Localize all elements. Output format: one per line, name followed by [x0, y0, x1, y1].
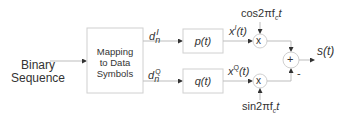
xq-label: xQ(t) — [228, 64, 249, 77]
input-label-line1: Binary — [8, 59, 68, 71]
dn-i-label: dnI — [149, 28, 159, 45]
p-filter-label: p(t) — [183, 36, 223, 47]
sin-carrier-label: sin2πfct — [242, 101, 279, 114]
cos-carrier-label: cos2πfct — [241, 8, 281, 21]
output-label: s(t) — [317, 45, 334, 57]
xi-label: xI(t) — [229, 24, 247, 37]
q-to-adder — [267, 69, 291, 81]
mapper-line1: Mapping — [87, 46, 143, 57]
multiplier-q-symbol: x — [256, 76, 261, 86]
mapper-line3: Symbols — [87, 68, 143, 79]
i-to-adder — [267, 41, 291, 51]
adder-symbol: + — [287, 54, 293, 65]
mapping-label: Mapping to Data Symbols — [87, 46, 143, 79]
adder-minus-sign: - — [297, 68, 301, 79]
input-label: Binary Sequence — [8, 59, 68, 84]
multiplier-i-symbol: x — [256, 36, 261, 46]
dn-q-label: dnQ — [148, 68, 161, 84]
input-label-line2: Sequence — [8, 72, 68, 84]
q-filter-label: q(t) — [183, 76, 223, 87]
mapper-line2: to Data — [87, 57, 143, 68]
